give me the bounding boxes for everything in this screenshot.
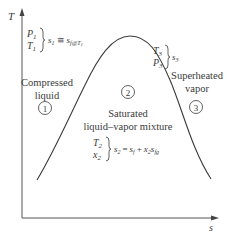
t-s-diagram: T s P1 T1 s1≅sf@T1 Compressed liquid 1 2… (0, 0, 227, 233)
region-1-compressed-liquid: P1 T1 s1≅sf@T1 Compressed liquid 1 (21, 28, 83, 115)
region-2-number: 2 (126, 88, 131, 98)
y-axis-label: T (8, 10, 15, 22)
state-var-x2: x2 (92, 149, 101, 162)
region-2-label-line2: liquid–vapor mixture (84, 121, 173, 132)
region-1-number: 1 (43, 104, 48, 114)
region-1-label-line1: Compressed (21, 77, 74, 88)
region-3-label-line1: Superheated (171, 70, 224, 81)
region-3-superheated-vapor: T3 P3 s3 Superheated vapor 3 (152, 45, 224, 114)
y-axis-arrow-icon (20, 8, 25, 16)
brace-icon (40, 28, 45, 52)
x-axis-arrow-icon (211, 216, 219, 221)
state-var-t1: T1 (27, 40, 36, 53)
region-3-number: 3 (194, 103, 199, 113)
entropy-relation-1: s1≅sf@T1 (48, 35, 83, 47)
region-2-saturated-mixture: 2 Saturated liquid–vapor mixture T2 x2 s… (84, 86, 173, 163)
x-axis-label: s (209, 222, 213, 233)
region-3-label-line2: vapor (185, 83, 209, 94)
region-2-label-line1: Saturated (108, 108, 148, 119)
region-1-label-line2: liquid (35, 90, 60, 101)
state-var-p3: P3 (152, 57, 163, 70)
entropy-relation-2: s2=sf+x2sfg (114, 144, 159, 155)
brace-icon (106, 137, 111, 161)
brace-icon (165, 45, 170, 69)
entropy-relation-3: s3 (172, 52, 179, 63)
